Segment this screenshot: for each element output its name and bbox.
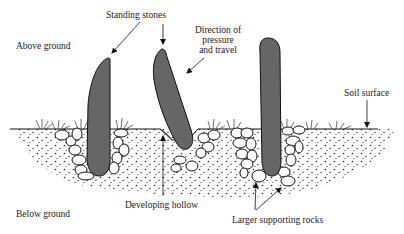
label-below-ground: Below ground: [16, 209, 70, 219]
label-direction-line3: and travel: [191, 45, 245, 55]
label-direction-of-pressure: Direction of pressure and travel: [191, 25, 245, 55]
standing-stones-diagram: Standing stones Direction of pressure an…: [0, 0, 404, 234]
label-above-ground: Above ground: [16, 41, 71, 51]
right-stone: [260, 38, 281, 176]
label-standing-stones: Standing stones: [106, 10, 166, 20]
arrow-direction: [187, 58, 204, 73]
arrow-standing-stones-left: [112, 22, 140, 53]
label-direction-line1: Direction of: [191, 25, 245, 35]
label-soil-surface: Soil surface: [344, 88, 389, 98]
label-developing-hollow: Developing hollow: [125, 200, 198, 210]
label-larger-supporting-rocks: Larger supporting rocks: [232, 215, 323, 225]
label-direction-line2: pressure: [191, 35, 245, 45]
left-stone: [87, 58, 110, 176]
